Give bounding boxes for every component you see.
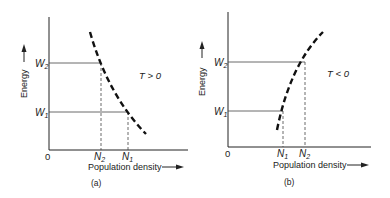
condition-label: T > 0 bbox=[139, 70, 162, 81]
x-arrow-icon bbox=[361, 163, 369, 168]
y-arrow-icon bbox=[22, 44, 27, 52]
panel-a: Energy W2 W1 T > 0 0 N2 N1 Population de… bbox=[19, 17, 188, 188]
condition-label: T < 0 bbox=[327, 68, 350, 79]
y-axis-label: Energy bbox=[19, 69, 29, 98]
figure: Energy W2 W1 T > 0 0 N2 N1 Population de… bbox=[0, 0, 390, 198]
y-arrow-icon bbox=[200, 41, 205, 49]
w1-label: W1 bbox=[35, 107, 48, 119]
x-axis-label: Population density bbox=[88, 162, 162, 172]
n2-label: N2 bbox=[299, 148, 310, 160]
w1-label: W1 bbox=[214, 106, 227, 118]
origin-label: 0 bbox=[225, 148, 230, 159]
x-axis-label: Population density bbox=[273, 160, 347, 170]
y-axis-label: Energy bbox=[197, 67, 207, 96]
caption-a: (a) bbox=[91, 178, 102, 188]
energy-density-curve bbox=[277, 32, 323, 130]
caption-b: (b) bbox=[284, 177, 295, 187]
x-arrow-icon bbox=[176, 165, 184, 170]
n1-label: N1 bbox=[277, 148, 288, 160]
energy-density-curve bbox=[90, 32, 146, 134]
origin-label: 0 bbox=[45, 151, 50, 162]
w2-label: W2 bbox=[214, 57, 227, 69]
w2-label: W2 bbox=[35, 58, 48, 70]
panel-b: Energy W2 W1 T < 0 0 N1 N2 Population de… bbox=[197, 12, 371, 187]
